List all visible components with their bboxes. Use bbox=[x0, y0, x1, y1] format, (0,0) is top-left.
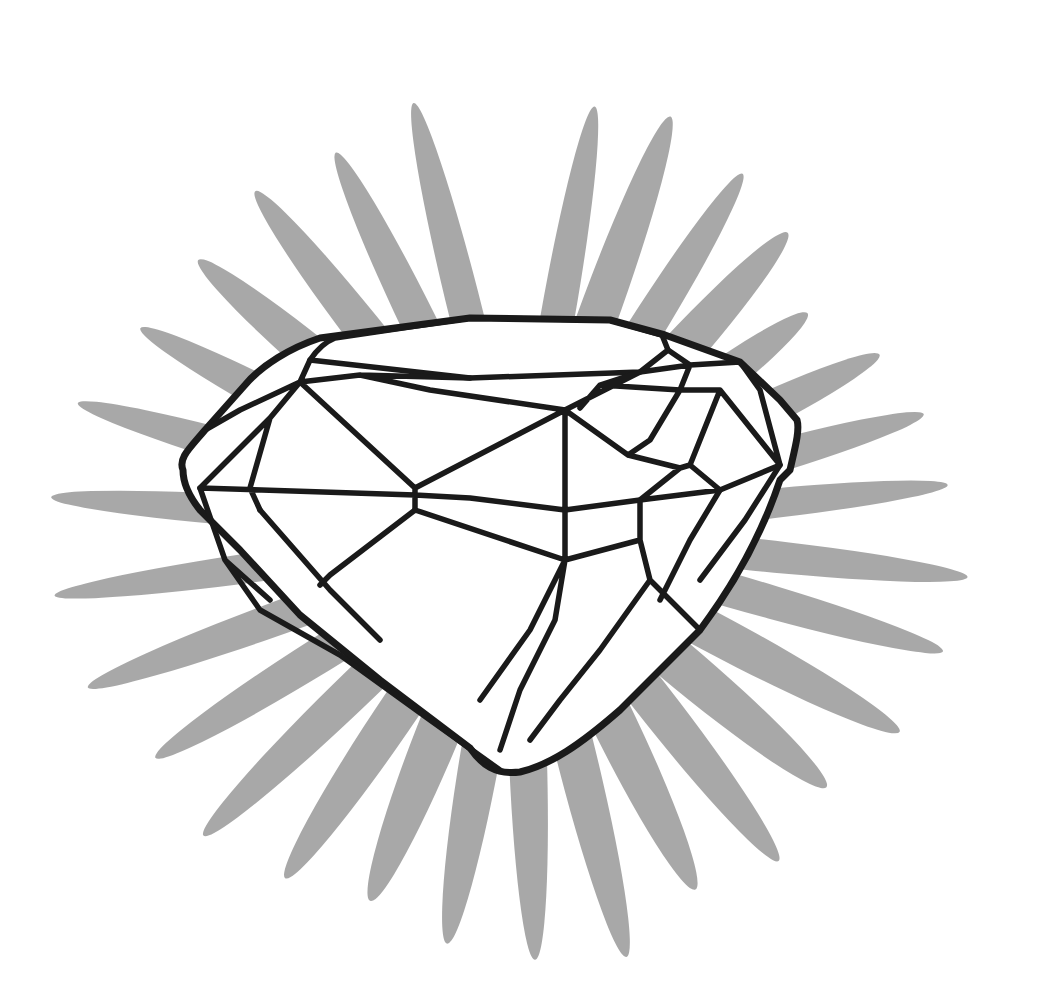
diamond-illustration bbox=[0, 0, 1051, 983]
